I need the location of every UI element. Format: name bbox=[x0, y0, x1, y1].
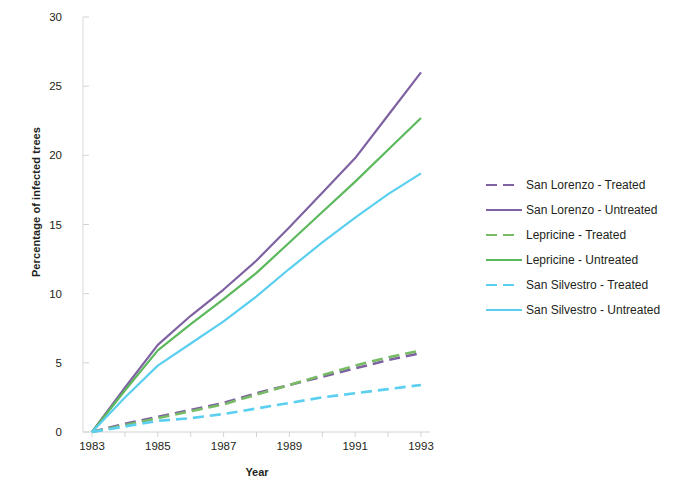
legend-item[interactable]: San Lorenzo - Treated bbox=[486, 172, 672, 197]
series-line bbox=[92, 173, 421, 432]
legend-item-label: San Silvestro - Treated bbox=[526, 278, 648, 292]
series-line bbox=[92, 385, 421, 432]
legend-item[interactable]: San Lorenzo - Untreated bbox=[486, 197, 672, 222]
chart-legend: San Lorenzo - TreatedSan Lorenzo - Untre… bbox=[486, 172, 672, 322]
legend-item[interactable]: Lepricine - Untreated bbox=[486, 247, 672, 272]
series-line bbox=[92, 72, 421, 432]
legend-item-label: San Lorenzo - Untreated bbox=[526, 203, 657, 217]
legend-item-label: San Lorenzo - Treated bbox=[526, 178, 645, 192]
legend-line-icon bbox=[486, 204, 522, 216]
line-chart: Percentage of infected trees 05101520253… bbox=[0, 0, 674, 484]
legend-line-icon bbox=[486, 304, 522, 316]
legend-item[interactable]: Lepricine - Treated bbox=[486, 222, 672, 247]
series-line bbox=[92, 118, 421, 432]
legend-item-label: San Silvestro - Untreated bbox=[526, 303, 660, 317]
legend-item-label: Lepricine - Untreated bbox=[526, 253, 638, 267]
legend-line-icon bbox=[486, 229, 522, 241]
legend-line-icon bbox=[486, 254, 522, 266]
legend-item[interactable]: San Silvestro - Treated bbox=[486, 272, 672, 297]
legend-item[interactable]: San Silvestro - Untreated bbox=[486, 297, 672, 322]
legend-item-label: Lepricine - Treated bbox=[526, 228, 626, 242]
legend-line-icon bbox=[486, 279, 522, 291]
legend-line-icon bbox=[486, 179, 522, 191]
